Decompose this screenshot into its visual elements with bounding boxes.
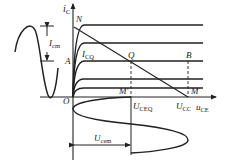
x-axis-label: uCE	[196, 102, 209, 113]
point-m-prime-label: M′	[118, 86, 129, 96]
point-b-label: B	[186, 50, 192, 60]
diagram-canvas: iC uCE O N A Q B M M′ ICQ Icm UCEQ UCC U…	[0, 0, 227, 164]
y-axis-label: iC	[63, 3, 71, 16]
axes	[40, 4, 216, 160]
point-m-label: M	[190, 86, 199, 96]
uceq-label: UCEQ	[133, 101, 153, 112]
origin-label: O	[63, 96, 70, 106]
icm-label: Icm	[48, 38, 60, 49]
ic-waveform	[15, 26, 58, 98]
curve-5	[73, 88, 203, 97]
icq-label: ICQ	[81, 49, 94, 60]
point-a-label: A	[64, 56, 71, 66]
ucc-label: UCC	[176, 101, 191, 112]
ucem-label: Ucem	[94, 133, 111, 144]
point-n-label: N	[75, 14, 83, 24]
curve-2	[73, 43, 203, 97]
characteristic-curves	[73, 25, 203, 97]
point-q-label: Q	[128, 50, 135, 60]
